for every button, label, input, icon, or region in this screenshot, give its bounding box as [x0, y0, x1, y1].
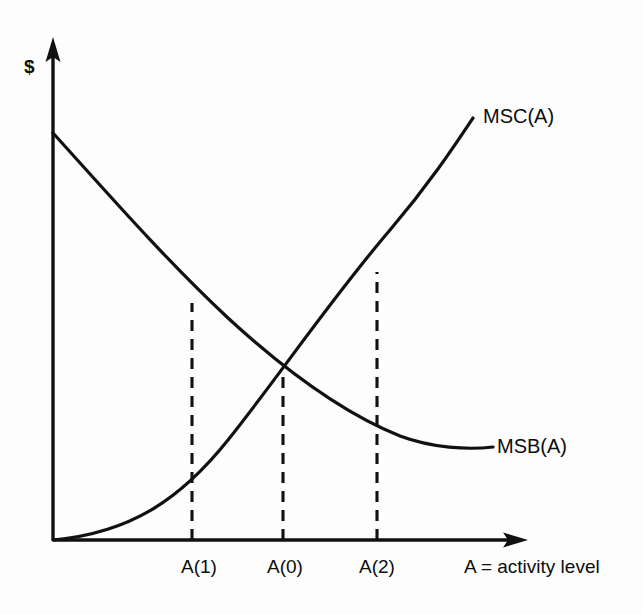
x-axis-title: A = activity level	[464, 556, 600, 578]
msb-curve	[53, 133, 493, 448]
x-tick-label-a0: A(0)	[267, 556, 303, 578]
chart-canvas	[0, 0, 643, 615]
msc-curve	[53, 118, 473, 540]
x-tick-label-a1: A(1)	[181, 556, 217, 578]
y-axis-title: $	[24, 56, 35, 78]
economics-chart-figure: $ MSC(A) MSB(A) A(1) A(0) A(2) A = activ…	[0, 0, 643, 615]
msc-curve-label: MSC(A)	[483, 105, 554, 128]
x-tick-label-a2: A(2)	[359, 556, 395, 578]
msb-curve-label: MSB(A)	[497, 435, 567, 458]
